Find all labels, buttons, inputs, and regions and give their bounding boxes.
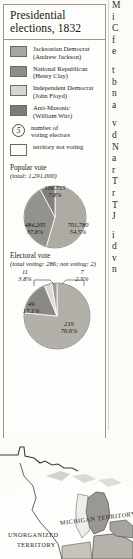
- body-line: i: [112, 230, 133, 242]
- body-paragraph-4: i d v n: [112, 230, 133, 276]
- empty-box-icon: [10, 144, 27, 156]
- pie-slice-percent: 17.1%: [16, 307, 46, 314]
- pie-slice-label: 72.5%: [68, 268, 96, 282]
- legend-symbol-line-1: territory not voting: [33, 143, 83, 151]
- legend-swatch-icon: [10, 105, 27, 116]
- page-root: M i C f e t b n a v d N a r T r T J i d …: [0, 0, 133, 559]
- pie-slice-percent: 7.8%: [34, 191, 76, 198]
- electoral-vote-pie: 113.8%72.5%4917.1%21976.6%: [10, 268, 103, 352]
- popular-vote-pie: 100,7157.8%484,20537.6%701,78054.5%: [10, 181, 103, 249]
- pie-slice-label: 701,78054.5%: [57, 221, 99, 235]
- electoral-vote-subtitle: (total voting: 286; not voting: 2): [10, 260, 101, 268]
- body-paragraph-3: v d N a r T r T J: [112, 118, 133, 222]
- legend-candidate-name: (William Wirt): [33, 112, 72, 120]
- pie-slice-value: 701,780: [57, 221, 99, 228]
- legend-swatch-icon: [10, 85, 27, 96]
- legend-swatch-icon: [10, 66, 27, 77]
- popular-vote-title: Popular vote: [10, 164, 101, 172]
- legend-list: Jacksonian Democrat (Andrew Jackson) Nat…: [4, 40, 105, 163]
- legend-swatch-icon: [10, 46, 27, 57]
- legend-item-jacksonian-democrat: Jacksonian Democrat (Andrew Jackson): [10, 45, 101, 60]
- body-line: v: [112, 118, 133, 130]
- legend-inset-box: Presidential elections, 1832 Jacksonian …: [3, 4, 106, 441]
- electoral-vote-chart: Electoral vote (total voting: 286; not v…: [4, 249, 105, 353]
- body-line: C: [112, 23, 133, 35]
- pie-slice-label: 4917.1%: [16, 300, 46, 314]
- legend-party-name: Jacksonian Democrat: [33, 45, 90, 53]
- body-line: d: [112, 241, 133, 253]
- pie-slice-percent: 76.6%: [54, 327, 84, 334]
- pie-slice-value: 100,715: [34, 184, 76, 191]
- body-line: t: [112, 65, 133, 77]
- body-line: i: [112, 12, 133, 24]
- electoral-vote-title: Electoral vote: [10, 252, 101, 260]
- legend-item-voting-electors: 5 number of voting electors: [10, 124, 101, 139]
- body-paragraph-2: t b n a: [112, 65, 133, 111]
- inset-title-line-2: elections, 1832: [10, 22, 100, 35]
- body-line: M: [112, 0, 133, 12]
- body-line: J: [112, 211, 133, 223]
- pie-slice-value: 484,205: [15, 221, 55, 228]
- popular-vote-chart: Popular vote (total: 1,291,000) 100,7157…: [4, 163, 105, 249]
- legend-symbol-line-2: voting electors: [31, 131, 70, 139]
- legend-item-territory-not-voting: territory not voting: [10, 143, 101, 156]
- pie-slice-value: 11: [12, 268, 38, 275]
- legend-candidate-name: (Henry Clay): [33, 72, 87, 80]
- pie-slice-label: 100,7157.8%: [34, 184, 76, 198]
- body-line: d: [112, 130, 133, 142]
- legend-item-independent-democrat: Independent Democrat (John Floyd): [10, 84, 101, 99]
- legend-party-name: National Republican: [33, 65, 87, 73]
- northern-border: [0, 447, 78, 471]
- body-line: e: [112, 46, 133, 58]
- body-line: N: [112, 142, 133, 154]
- legend-candidate-name: (Andrew Jackson): [33, 53, 90, 61]
- legend-item-label: Anti-Masonic (William Wirt): [33, 104, 72, 119]
- body-line: b: [112, 77, 133, 89]
- pie-slice-label: 484,20537.6%: [15, 221, 55, 235]
- body-line: T: [112, 200, 133, 212]
- pie-slice-percent: 37.6%: [15, 228, 55, 235]
- legend-item-label: territory not voting: [33, 143, 83, 151]
- body-line: T: [112, 176, 133, 188]
- body-line: v: [112, 253, 133, 265]
- pie-slice-percent: 3.8%: [12, 275, 38, 282]
- body-line: r: [112, 165, 133, 177]
- map-label-unorganized-territory-1: UNORGANIZED: [8, 531, 59, 538]
- body-line: n: [112, 88, 133, 100]
- body-line: a: [112, 100, 133, 112]
- pie-slice-label: 113.8%: [12, 268, 38, 282]
- legend-party-name: Anti-Masonic: [33, 104, 72, 112]
- legend-item-label: number of voting electors: [31, 124, 70, 139]
- body-line: n: [112, 264, 133, 276]
- body-line: f: [112, 35, 133, 47]
- legend-symbol-line-1: number of: [31, 124, 70, 132]
- legend-candidate-name: (John Floyd): [33, 92, 93, 100]
- legend-item-label: Jacksonian Democrat (Andrew Jackson): [33, 45, 90, 60]
- legend-item-anti-masonic: Anti-Masonic (William Wirt): [10, 104, 101, 119]
- body-text-column: M i C f e t b n a v d N a r T r T J i d …: [108, 0, 133, 430]
- legend-party-name: Independent Democrat: [33, 84, 93, 92]
- body-line: r: [112, 188, 133, 200]
- pie-slice-percent: 54.5%: [57, 228, 99, 235]
- pie-slice-label: 21976.6%: [54, 320, 84, 334]
- legend-item-label: National Republican (Henry Clay): [33, 65, 87, 80]
- inset-title: Presidential elections, 1832: [4, 5, 105, 40]
- body-line: a: [112, 153, 133, 165]
- map-label-unorganized-territory-2: TERRITORY: [17, 541, 56, 548]
- pie-slice-value: 219: [54, 320, 84, 327]
- map-region: MICHIGAN TERRITORY UNORGANIZED TERRITORY: [0, 438, 133, 559]
- legend-item-label: Independent Democrat (John Floyd): [33, 84, 93, 99]
- inset-title-line-1: Presidential: [10, 9, 100, 22]
- popular-vote-subtitle: (total: 1,291,000): [10, 172, 101, 180]
- pie-slice-value: 7: [68, 268, 96, 275]
- pie-slice-percent: 2.5%: [68, 275, 96, 282]
- legend-item-national-republican: National Republican (Henry Clay): [10, 65, 101, 80]
- elector-count-circle-icon: 5: [12, 124, 25, 137]
- pie-slice-value: 49: [16, 300, 46, 307]
- body-paragraph-1: M i C f e: [112, 0, 133, 58]
